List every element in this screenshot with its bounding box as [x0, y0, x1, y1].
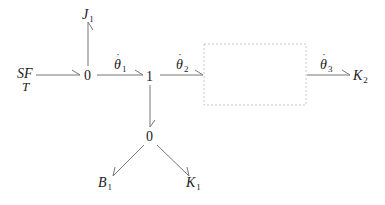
theta1-label: ˙θ1 [114, 58, 126, 72]
half-arrow [135, 70, 143, 75]
bond-0-to-b1 [113, 145, 144, 176]
theta3-dot: ˙ [322, 52, 326, 64]
bond-0-to-k1 [157, 145, 189, 176]
half-arrow [72, 70, 80, 75]
k2-main: K [353, 68, 362, 83]
k2-label: K2 [353, 69, 368, 83]
junction-1: 1 [146, 70, 153, 84]
source-t-label: T [22, 80, 29, 93]
j1-main: J [82, 7, 88, 22]
half-arrow [342, 70, 350, 75]
k2-sub: 2 [363, 75, 368, 85]
k1-sub: 1 [196, 182, 201, 192]
theta2-dot: ˙ [178, 52, 182, 64]
k1-main: K [186, 175, 195, 190]
theta3-label: ˙θ3 [320, 58, 332, 72]
j1-sub: 1 [89, 14, 94, 24]
theta1-dot: ˙ [116, 52, 120, 64]
half-arrow [195, 70, 203, 75]
b1-sub: 1 [108, 182, 113, 192]
junction-0-bottom: 0 [146, 130, 153, 144]
theta2-sub: 2 [184, 64, 189, 74]
j1-label: J1 [82, 8, 94, 22]
k1-label: K1 [186, 176, 201, 190]
junction-0-top: 0 [84, 69, 91, 83]
theta2-label: ˙θ2 [176, 58, 188, 72]
b1-main: B [98, 175, 107, 190]
half-arrow [150, 120, 155, 127]
source-sub: T [22, 79, 29, 94]
theta1-sub: 1 [122, 64, 127, 74]
placeholder-box [204, 44, 306, 105]
b1-label: B1 [98, 176, 112, 190]
theta3-sub: 3 [328, 64, 333, 74]
